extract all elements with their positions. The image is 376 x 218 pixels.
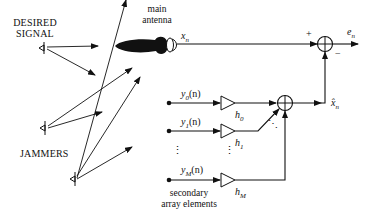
xhat-n-label: x̂n bbox=[331, 97, 339, 113]
jammer-source-icon bbox=[40, 121, 45, 135]
desired-signal-label: DESIRED SIGNAL bbox=[5, 17, 65, 39]
h1-label: h1 bbox=[235, 137, 244, 153]
output-summer-icon bbox=[318, 37, 333, 52]
minus-sign: − bbox=[335, 48, 341, 59]
estimate-arrowhead-icon bbox=[314, 100, 322, 106]
h0-label: h0 bbox=[235, 109, 244, 125]
desired-signal-source-icon bbox=[39, 42, 44, 54]
yM-label: yM(n) bbox=[181, 164, 203, 180]
secondary-array-label: secondary array elements bbox=[148, 188, 230, 210]
amplifier-h0-icon bbox=[221, 96, 235, 110]
x-n-label: xn bbox=[181, 30, 189, 46]
jammers-label: JAMMERS bbox=[20, 148, 69, 159]
sidelobe-canceller-diagram: DESIRED SIGNAL JAMMERS main antenna seco… bbox=[0, 0, 376, 218]
plus-sign: + bbox=[306, 28, 312, 39]
amplifier-hM-icon bbox=[221, 173, 235, 187]
hM-label: hM bbox=[235, 186, 246, 202]
amplifier-h1-icon bbox=[221, 124, 235, 138]
estimate-arrowhead-icon bbox=[322, 52, 328, 60]
weight-summer-icon bbox=[278, 96, 293, 111]
e-n-label: en bbox=[347, 26, 355, 42]
y0-label: y0(n) bbox=[181, 88, 201, 104]
vertical-dots-left: ⋮ bbox=[172, 145, 183, 156]
y1-label: y1(n) bbox=[181, 116, 201, 132]
jammer-source-icon bbox=[70, 172, 75, 186]
vertical-dots-amps: ⋮ bbox=[224, 145, 235, 156]
estimate-line bbox=[292, 52, 325, 103]
main-antenna-label: main antenna bbox=[134, 4, 180, 26]
main-antenna-dish-icon bbox=[167, 38, 177, 52]
diagonal-dots: ⋱ bbox=[268, 118, 278, 129]
main-antenna-beam-icon bbox=[115, 37, 172, 54]
